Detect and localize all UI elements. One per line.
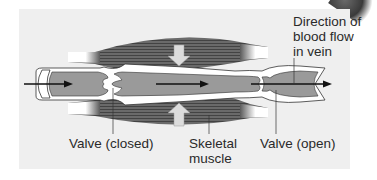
label-line: Skeletal — [189, 136, 237, 151]
label-line: blood flow — [293, 29, 361, 44]
label-skeletal-muscle: Skeletal muscle — [189, 136, 237, 166]
label-line: muscle — [189, 151, 237, 166]
label-direction-of-blood-flow: Direction of blood flow in vein — [293, 14, 361, 59]
label-line: Direction of — [293, 14, 361, 29]
label-valve-closed: Valve (closed) — [69, 136, 154, 151]
label-valve-open: Valve (open) — [260, 136, 336, 151]
label-line: in vein — [293, 44, 361, 59]
